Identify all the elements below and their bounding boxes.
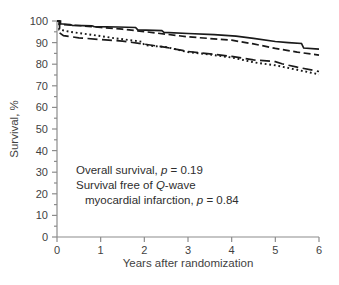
y-tick-label: 80 — [36, 58, 48, 70]
chart-canvas: 01020304050607080901000123456 — [0, 0, 339, 285]
annotation-text: Overall survival, — [76, 164, 161, 176]
x-tick-label: 4 — [229, 244, 235, 256]
survival-curve-qwave-mi-free-long-dash — [57, 21, 319, 72]
y-tick-label: 50 — [36, 123, 48, 135]
annotation-italic-q: Q — [156, 179, 165, 191]
y-axis-title: Survival, % — [8, 100, 20, 158]
annotation-overall-survival: Overall survival, p = 0.19 — [76, 163, 239, 178]
x-tick-label: 5 — [272, 244, 278, 256]
y-tick-label: 90 — [36, 37, 48, 49]
x-tick-label: 1 — [98, 244, 104, 256]
annotation-text: -wave — [165, 179, 196, 191]
y-tick-label: 30 — [36, 166, 48, 178]
annotation-qwave-line-1: Survival free of Q-wave — [76, 178, 239, 193]
y-tick-label: 0 — [42, 231, 48, 243]
y-tick-label: 60 — [36, 101, 48, 113]
y-tick-label: 10 — [36, 209, 48, 221]
y-tick-label: 20 — [36, 188, 48, 200]
y-tick-label: 40 — [36, 145, 48, 157]
x-tick-label: 2 — [141, 244, 147, 256]
annotation-text: = 0.84 — [203, 194, 239, 206]
x-tick-label: 6 — [316, 244, 322, 256]
x-tick-label: 0 — [54, 244, 60, 256]
y-tick-label: 100 — [30, 15, 48, 27]
x-tick-label: 3 — [185, 244, 191, 256]
survival-curve-overall-survival-solid — [57, 21, 319, 49]
annotation-text: myocardial infarction, — [85, 194, 197, 206]
survival-figure: 01020304050607080901000123456 Survival, … — [0, 0, 339, 285]
survival-curve-qwave-mi-free-dotted — [57, 21, 319, 74]
annotation-text: Survival free of — [76, 179, 156, 191]
annotation-text: = 0.19 — [167, 164, 203, 176]
annotation-block: Overall survival, p = 0.19 Survival free… — [76, 163, 239, 208]
annotation-qwave-line-2: myocardial infarction, p = 0.84 — [85, 193, 239, 208]
y-tick-label: 70 — [36, 80, 48, 92]
x-axis-title: Years after randomization — [57, 257, 319, 269]
